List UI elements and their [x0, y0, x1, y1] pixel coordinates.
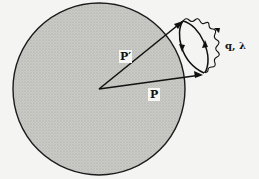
- label-photon: q, λ: [225, 41, 246, 51]
- diagram-canvas: [0, 0, 259, 179]
- label-p: P: [148, 88, 160, 101]
- photon-wavy-line: [183, 19, 219, 73]
- fermion-loop: [179, 21, 208, 73]
- loop-arrow-down: [179, 44, 185, 52]
- label-p-prime: P′: [119, 50, 132, 63]
